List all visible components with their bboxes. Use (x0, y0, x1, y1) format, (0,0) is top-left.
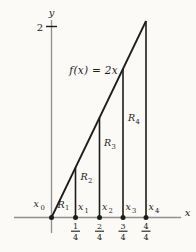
region-label-r1-base: R (57, 199, 65, 210)
region-label-r3-base: R (103, 137, 111, 148)
region-label-r1-sub: 1 (65, 204, 69, 212)
fraction-3-4-num: 3 (120, 222, 125, 231)
point-label-x0-base: x (34, 198, 40, 209)
dot-x4 (144, 215, 149, 220)
region-labels: R 1 R 2 R 3 R 4 (57, 112, 140, 212)
fraction-2-4-num: 2 (97, 222, 102, 231)
region-label-r4-sub: 4 (136, 118, 140, 126)
fraction-1-4-num: 1 (73, 222, 78, 231)
figure-canvas: y x 2 f(x) = 2x x 0 x 1 x (0, 0, 196, 252)
fraction-3-4-den: 4 (120, 233, 125, 242)
fraction-4-4-den: 4 (143, 233, 148, 242)
dot-x1 (73, 215, 78, 220)
fraction-1-4: 1 4 (71, 222, 80, 242)
point-label-x1-sub: 1 (85, 207, 89, 215)
fraction-1-4-den: 4 (73, 233, 78, 242)
riemann-sum-figure: y x 2 f(x) = 2x x 0 x 1 x (0, 0, 196, 252)
region-label-r4-base: R (127, 112, 135, 123)
point-label-x2-sub: 2 (109, 207, 113, 215)
fraction-3-4: 3 4 (119, 222, 128, 242)
fraction-tick-labels: 1 4 2 4 3 4 4 4 (71, 222, 151, 242)
dot-x2 (97, 215, 102, 220)
point-labels: x 0 x 1 x 2 x 3 x 4 (34, 198, 160, 215)
point-label-x3-base: x (126, 201, 132, 212)
point-label-x0-sub: 0 (41, 204, 45, 212)
dot-x3 (121, 215, 126, 220)
point-label-x2-base: x (102, 201, 108, 212)
dot-x0 (49, 215, 54, 220)
point-label-x1-base: x (78, 201, 84, 212)
region-label-r2-base: R (80, 171, 88, 182)
point-label-x3-sub: 3 (132, 207, 136, 215)
region-label-r2-sub: 2 (88, 177, 92, 185)
fraction-2-4-den: 4 (97, 233, 102, 242)
region-label-r3-sub: 3 (112, 143, 116, 151)
function-label: f(x) = 2x (68, 64, 118, 76)
fraction-2-4: 2 4 (95, 222, 104, 242)
point-label-x4-sub: 4 (155, 207, 159, 215)
x-axis-label: x (185, 207, 191, 218)
point-label-x4-base: x (149, 201, 155, 212)
y-axis-label: y (48, 7, 55, 18)
fraction-4-4-num: 4 (143, 222, 148, 231)
y-tick-2-label: 2 (37, 22, 43, 33)
fraction-4-4: 4 4 (142, 222, 151, 242)
